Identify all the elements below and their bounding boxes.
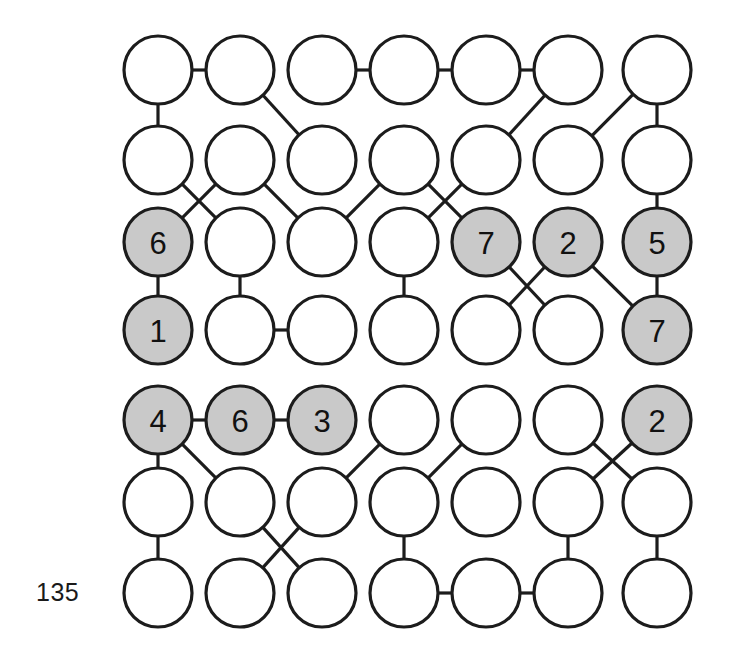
- graph-node-plain[interactable]: [534, 559, 602, 627]
- node-circle[interactable]: [124, 559, 192, 627]
- node-circle[interactable]: [370, 296, 438, 364]
- node-circle[interactable]: [124, 468, 192, 536]
- node-circle[interactable]: [534, 468, 602, 536]
- node-circle[interactable]: [370, 468, 438, 536]
- node-circle[interactable]: [534, 296, 602, 364]
- node-circle[interactable]: [452, 208, 520, 276]
- node-circle[interactable]: [288, 36, 356, 104]
- graph-node-plain[interactable]: [452, 468, 520, 536]
- node-circle[interactable]: [370, 36, 438, 104]
- node-circle[interactable]: [623, 559, 691, 627]
- graph-node-plain[interactable]: [452, 36, 520, 104]
- graph-node-plain[interactable]: [288, 36, 356, 104]
- graph-node-plain[interactable]: [124, 126, 192, 194]
- node-circle[interactable]: [452, 386, 520, 454]
- graph-node-shaded[interactable]: 4: [124, 386, 192, 454]
- graph-node-shaded[interactable]: 6: [206, 386, 274, 454]
- graph-node-plain[interactable]: [452, 126, 520, 194]
- graph-node-plain[interactable]: [206, 468, 274, 536]
- node-circle[interactable]: [452, 126, 520, 194]
- node-circle[interactable]: [623, 386, 691, 454]
- graph-node-plain[interactable]: [288, 126, 356, 194]
- node-circle[interactable]: [124, 296, 192, 364]
- node-circle[interactable]: [452, 559, 520, 627]
- node-circle[interactable]: [124, 208, 192, 276]
- graph-node-plain[interactable]: [452, 559, 520, 627]
- node-layer: 6725174632: [124, 36, 691, 627]
- node-circle[interactable]: [288, 126, 356, 194]
- graph-edge: [427, 443, 463, 479]
- graph-node-plain[interactable]: [370, 296, 438, 364]
- node-circle[interactable]: [534, 386, 602, 454]
- graph-node-plain[interactable]: [124, 468, 192, 536]
- node-circle[interactable]: [206, 386, 274, 454]
- graph-node-plain[interactable]: [534, 386, 602, 454]
- node-circle[interactable]: [206, 296, 274, 364]
- node-circle[interactable]: [288, 208, 356, 276]
- graph-node-plain[interactable]: [206, 36, 274, 104]
- graph-node-plain[interactable]: [370, 468, 438, 536]
- graph-node-plain[interactable]: [534, 468, 602, 536]
- graph-node-plain[interactable]: [370, 126, 438, 194]
- graph-node-plain[interactable]: [288, 468, 356, 536]
- node-circle[interactable]: [452, 468, 520, 536]
- node-circle[interactable]: [206, 36, 274, 104]
- graph-node-plain[interactable]: [288, 208, 356, 276]
- graph-node-shaded[interactable]: 1: [124, 296, 192, 364]
- node-circle[interactable]: [124, 386, 192, 454]
- node-circle[interactable]: [370, 126, 438, 194]
- graph-node-plain[interactable]: [206, 296, 274, 364]
- graph-node-shaded[interactable]: 5: [623, 208, 691, 276]
- node-circle[interactable]: [623, 208, 691, 276]
- graph-node-plain[interactable]: [623, 559, 691, 627]
- node-circle[interactable]: [288, 296, 356, 364]
- graph-node-shaded[interactable]: 7: [623, 296, 691, 364]
- node-circle[interactable]: [124, 36, 192, 104]
- graph-node-plain[interactable]: [124, 36, 192, 104]
- node-circle[interactable]: [288, 386, 356, 454]
- graph-node-plain[interactable]: [370, 36, 438, 104]
- graph-node-plain[interactable]: [288, 559, 356, 627]
- graph-node-plain[interactable]: [534, 36, 602, 104]
- node-circle[interactable]: [124, 126, 192, 194]
- graph-node-plain[interactable]: [623, 36, 691, 104]
- node-circle[interactable]: [623, 296, 691, 364]
- node-circle[interactable]: [534, 36, 602, 104]
- node-circle[interactable]: [623, 126, 691, 194]
- node-circle[interactable]: [534, 559, 602, 627]
- graph-node-plain[interactable]: [206, 559, 274, 627]
- graph-node-plain[interactable]: [370, 208, 438, 276]
- graph-node-plain[interactable]: [534, 296, 602, 364]
- graph-node-plain[interactable]: [206, 126, 274, 194]
- graph-node-shaded[interactable]: 6: [124, 208, 192, 276]
- node-circle[interactable]: [452, 296, 520, 364]
- node-circle[interactable]: [370, 559, 438, 627]
- graph-node-shaded[interactable]: 3: [288, 386, 356, 454]
- graph-node-plain[interactable]: [623, 126, 691, 194]
- node-circle[interactable]: [534, 126, 602, 194]
- graph-node-plain[interactable]: [370, 559, 438, 627]
- node-circle[interactable]: [206, 468, 274, 536]
- graph-node-plain[interactable]: [370, 386, 438, 454]
- node-circle[interactable]: [206, 126, 274, 194]
- node-circle[interactable]: [370, 386, 438, 454]
- graph-node-plain[interactable]: [534, 126, 602, 194]
- graph-node-plain[interactable]: [452, 386, 520, 454]
- node-circle[interactable]: [206, 559, 274, 627]
- node-circle[interactable]: [288, 559, 356, 627]
- graph-node-shaded[interactable]: 2: [623, 386, 691, 454]
- node-circle[interactable]: [370, 208, 438, 276]
- graph-node-shaded[interactable]: 2: [534, 208, 602, 276]
- graph-node-plain[interactable]: [124, 559, 192, 627]
- node-circle[interactable]: [623, 36, 691, 104]
- node-circle[interactable]: [452, 36, 520, 104]
- graph-node-plain[interactable]: [452, 296, 520, 364]
- node-circle[interactable]: [623, 468, 691, 536]
- node-circle[interactable]: [206, 208, 274, 276]
- graph-node-shaded[interactable]: 7: [452, 208, 520, 276]
- node-circle[interactable]: [534, 208, 602, 276]
- graph-node-plain[interactable]: [288, 296, 356, 364]
- graph-node-plain[interactable]: [206, 208, 274, 276]
- node-circle[interactable]: [288, 468, 356, 536]
- graph-node-plain[interactable]: [623, 468, 691, 536]
